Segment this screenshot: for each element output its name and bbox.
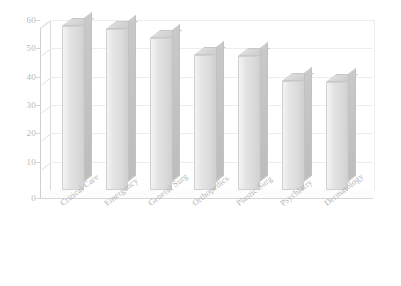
bar-emergency[interactable]: [106, 29, 128, 190]
bar-front-face: [238, 56, 260, 190]
bar-psychiatry[interactable]: [282, 81, 304, 190]
bar-side-face: [304, 67, 312, 182]
bar-general-surg[interactable]: [150, 38, 172, 190]
y-axis: 60 50 40 30 20 10 0: [0, 20, 40, 198]
y-tick-label-30: 30: [8, 100, 36, 110]
y-tick-label-40: 40: [8, 72, 36, 82]
x-axis: Critical Care Emergency General Surg Ort…: [40, 200, 373, 286]
y-tick-label-60: 60: [8, 15, 36, 25]
y-tick-label-50: 50: [8, 43, 36, 53]
bar-chart: 60 50 40 30 20 10 0: [0, 0, 401, 286]
bar-dermatology[interactable]: [326, 82, 348, 190]
bar-side-face: [348, 68, 356, 182]
bar-front-face: [62, 26, 84, 190]
bar-side-face: [172, 24, 180, 182]
bar-front-face: [326, 82, 348, 190]
y-tick-label-20: 20: [8, 128, 36, 138]
bar-front-face: [194, 55, 216, 190]
bar-side-face: [128, 15, 136, 182]
bar-side-face: [216, 41, 224, 182]
bar-critical-care[interactable]: [62, 26, 84, 190]
bar-side-face: [84, 12, 92, 182]
y-tick-label-10: 10: [8, 157, 36, 167]
plot-area: [40, 20, 373, 198]
bar-plastic-surg[interactable]: [238, 56, 260, 190]
y-tick-label-0: 0: [8, 193, 36, 203]
bar-front-face: [106, 29, 128, 190]
bar-front-face: [282, 81, 304, 190]
bar-side-face: [260, 42, 268, 182]
bar-orthopedics[interactable]: [194, 55, 216, 190]
bar-front-face: [150, 38, 172, 190]
bar-series: [40, 20, 373, 198]
